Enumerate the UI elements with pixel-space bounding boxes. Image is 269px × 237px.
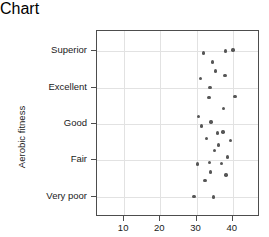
data-point [226,155,229,158]
data-point [221,130,224,133]
data-point [233,95,236,98]
data-point [213,149,216,152]
y-tick-mark [91,87,96,88]
gridline-vertical [160,31,161,215]
data-point [192,195,195,198]
data-point [208,86,211,89]
data-point [224,173,227,176]
x-tick-label: 10 [108,223,138,233]
y-tick-mark [91,196,96,197]
gridline-horizontal [97,197,258,198]
data-point [208,161,211,164]
data-point [196,162,199,165]
x-tick-label: 20 [144,223,174,233]
gridline-horizontal [97,88,258,89]
y-tick-label: Good [64,118,87,128]
x-tick-mark [159,216,160,221]
data-point [200,124,203,127]
data-point [212,195,215,198]
y-tick-mark [91,159,96,160]
gridline-vertical [197,31,198,215]
data-point [217,143,220,146]
x-tick-label: 30 [181,223,211,233]
data-point [231,48,234,51]
data-point [203,179,206,182]
scatter-plot: Aerobic fitness Very poorFairGoodExcelle… [0,18,269,237]
x-tick-mark [196,216,197,221]
y-tick-label: Very poor [46,191,87,201]
gridline-horizontal [97,160,258,161]
y-tick-label: Excellent [48,82,87,92]
data-point [220,162,223,165]
data-point [209,120,212,123]
y-tick-label: Superior [51,45,87,55]
data-point [205,137,208,140]
y-axis-title: Aerobic fitness [16,72,27,202]
x-tick-mark [123,216,124,221]
gridline-horizontal [97,124,258,125]
data-point [214,69,217,72]
plot-frame [96,30,259,216]
data-point [222,107,225,110]
data-point [202,51,205,54]
data-point [197,115,200,118]
data-point [199,77,202,80]
plot-area [97,31,258,215]
data-point [216,131,219,134]
y-tick-mark [91,123,96,124]
y-tick-mark [91,50,96,51]
y-tick-label: Fair [71,154,87,164]
data-point [223,74,226,77]
gridline-vertical [233,31,234,215]
data-point [224,49,227,52]
data-point [207,96,210,99]
gridline-vertical [124,31,125,215]
x-tick-mark [232,216,233,221]
data-point [211,60,214,63]
data-point [209,170,212,173]
x-tick-label: 40 [217,223,247,233]
